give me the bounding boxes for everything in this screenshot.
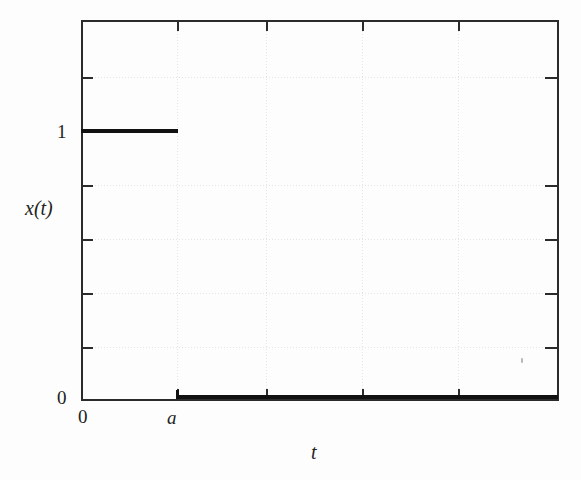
gridline-horizontal (83, 185, 557, 186)
x-axis-tick-label-zero: 0 (78, 407, 88, 426)
gridline-horizontal (83, 239, 557, 240)
gridline-vertical (266, 22, 267, 399)
gridline-vertical (458, 22, 459, 399)
y-axis-tick-right (545, 293, 557, 295)
gridline-horizontal (83, 77, 557, 78)
gridline-vertical (177, 22, 178, 399)
gridline-horizontal (83, 293, 557, 294)
gridline-vertical (362, 22, 363, 399)
plot-area (81, 20, 558, 400)
y-axis-tick-right (545, 347, 557, 349)
y-axis-tick (81, 347, 93, 349)
figure-canvas: 1 0 0 a x(t) t (0, 0, 581, 480)
axis-line-bottom (81, 399, 559, 401)
x-axis-tick-label-a: a (167, 408, 177, 427)
x-axis-label: t (311, 442, 317, 462)
y-axis-tick-label-one: 1 (57, 122, 67, 141)
axis-line-right (557, 20, 559, 401)
y-axis-tick (81, 239, 93, 241)
x-axis-tick-top (177, 20, 179, 31)
y-axis-tick (81, 77, 93, 79)
y-axis-label: x(t) (25, 198, 53, 218)
x-axis-tick-top (362, 20, 364, 31)
x-axis-tick-top (266, 20, 268, 31)
y-axis-tick-right (545, 239, 557, 241)
y-axis-tick (81, 185, 93, 187)
scan-artifact-speck (521, 358, 523, 363)
y-axis-tick-right (545, 77, 557, 79)
y-axis-tick-label-zero: 0 (57, 388, 67, 407)
series-segment-low (177, 395, 558, 399)
x-axis-tick-top (458, 20, 460, 31)
series-segment-high (81, 129, 178, 133)
gridline-horizontal (83, 347, 557, 348)
axis-line-top (81, 20, 559, 22)
y-axis-tick (81, 293, 93, 295)
y-axis-tick-right (545, 185, 557, 187)
